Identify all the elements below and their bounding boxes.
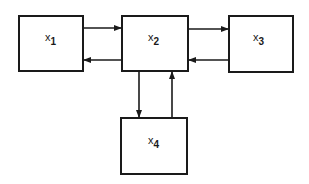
- node-x2: x2: [122, 16, 188, 71]
- node-x1: x1: [19, 16, 83, 71]
- node-x4: x4: [121, 118, 187, 174]
- block-diagram: x1 x2 x3 x4: [0, 0, 309, 184]
- node-x3: x3: [229, 16, 293, 72]
